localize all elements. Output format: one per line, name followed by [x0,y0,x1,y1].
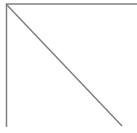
triangle-outline-figure [0,0,137,133]
figure-canvas: Right triangle line drawing Open right t… [0,0,137,133]
